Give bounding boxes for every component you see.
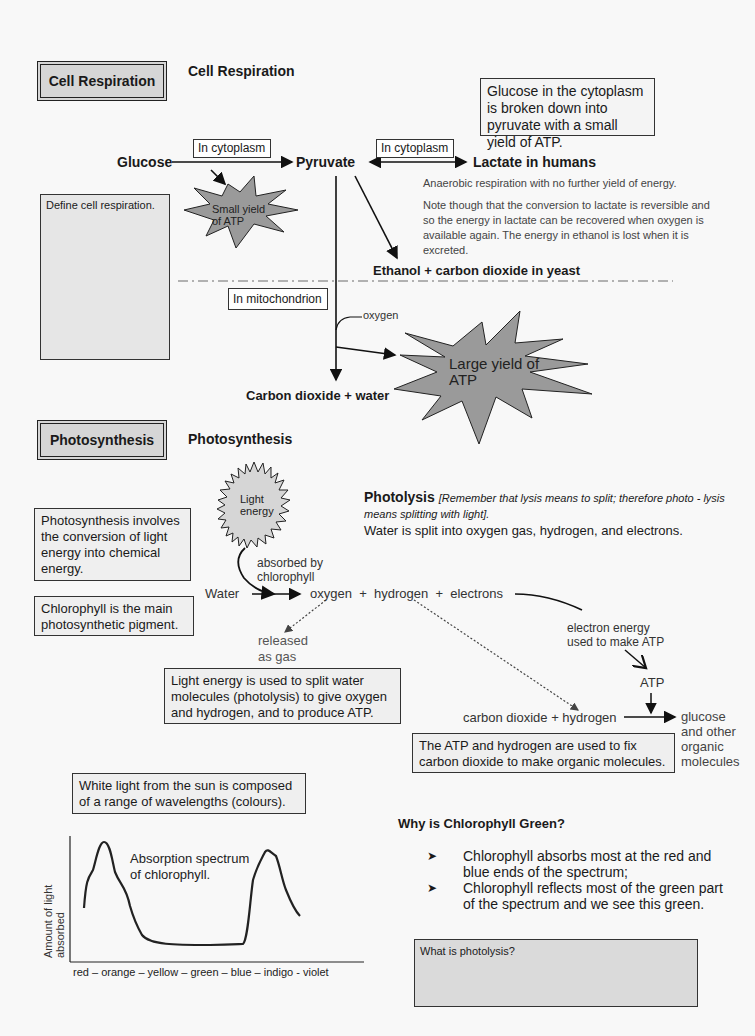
glucose-out-line4: molecules xyxy=(681,754,740,769)
water-label: Water xyxy=(205,586,239,601)
photolysis-prompt: What is photolysis? xyxy=(415,940,697,962)
pyruvate-label: Pyruvate xyxy=(296,154,355,170)
why-green-heading: Why is Chlorophyll Green? xyxy=(398,816,565,831)
bullet-item: ➤Chlorophyll absorbs most at the red and… xyxy=(427,848,727,880)
lactate-reversible-note: Note though that the conversion to lacta… xyxy=(423,198,713,258)
large-yield-line2: ATP xyxy=(449,372,539,388)
light-split-note: Light energy is used to split water mole… xyxy=(164,668,401,724)
absorbed-line2: chlorophyll xyxy=(257,570,323,584)
photosynthesis-involves-note: Photosynthesis involves the conversion o… xyxy=(34,508,191,581)
arrow-bullet-icon: ➤ xyxy=(427,848,437,864)
define-respiration-prompt: Define cell respiration. xyxy=(41,195,169,215)
released-line1: released xyxy=(258,633,308,649)
glucose-organic-label: glucose and other organic molecules xyxy=(681,709,740,769)
glucose-out-line1: glucose xyxy=(681,709,740,724)
in-mitochondrion-label: In mitochondrion xyxy=(228,288,328,310)
bullet-item: ➤Chlorophyll reflects most of the green … xyxy=(427,880,727,912)
bullet-text: Chlorophyll reflects most of the green p… xyxy=(463,880,723,912)
photolysis-explanation: Photolysis [Remember that lysis means to… xyxy=(364,490,744,538)
lactate-label: Lactate in humans xyxy=(473,154,596,170)
atp-fix-note: The ATP and hydrogen are used to fix car… xyxy=(412,733,675,773)
small-yield-text: Small yield of ATP xyxy=(212,203,272,227)
electron-energy-line2: used to make ATP xyxy=(567,635,664,649)
released-as-gas: released as gas xyxy=(258,633,308,665)
chart-title: Absorption spectrum of chlorophyll. xyxy=(130,851,260,883)
large-yield-line1: Large yield of xyxy=(449,356,539,372)
light-energy-line1: Light xyxy=(240,493,274,505)
chart-xlabel: red – orange – yellow – green – blue – i… xyxy=(73,966,329,978)
large-yield-text: Large yield of ATP xyxy=(449,356,539,388)
anaerobic-note: Anaerobic respiration with no further yi… xyxy=(423,176,713,191)
chlorophyll-pigment-note: Chlorophyll is the main photosynthetic p… xyxy=(34,596,194,636)
co2-hydrogen-label: carbon dioxide + hydrogen xyxy=(463,710,617,725)
atp-label: ATP xyxy=(640,675,664,690)
light-energy-line2: energy xyxy=(240,505,274,517)
products-label: oxygen + hydrogen + electrons xyxy=(310,586,503,601)
in-cytoplasm-label-2: In cytoplasm xyxy=(376,139,454,158)
photolysis-term: Photolysis xyxy=(364,489,435,505)
glucose-label: Glucose xyxy=(117,154,172,170)
small-yield-line1: Small yield xyxy=(212,203,272,215)
ethanol-label: Ethanol + carbon dioxide in yeast xyxy=(373,263,580,278)
arrow-bullet-icon: ➤ xyxy=(427,880,437,896)
small-yield-line2: of ATP xyxy=(212,215,272,227)
bullet-text: Chlorophyll absorbs most at the red and … xyxy=(463,848,711,880)
photosynthesis-heading: Photosynthesis xyxy=(188,431,292,447)
photosynthesis-section-box: Photosynthesis xyxy=(37,420,167,460)
chart-ylabel: Amount of light absorbed xyxy=(42,868,66,958)
electron-energy-label: electron energy used to make ATP xyxy=(567,621,664,649)
absorbed-line1: absorbed by xyxy=(257,556,323,570)
photolysis-answer-box[interactable]: What is photolysis? xyxy=(414,939,698,1007)
why-green-bullets: ➤Chlorophyll absorbs most at the red and… xyxy=(427,848,727,912)
photolysis-definition: Water is split into oxygen gas, hydrogen… xyxy=(364,523,744,538)
glucose-out-line2: and other xyxy=(681,724,740,739)
light-energy-text: Light energy xyxy=(240,493,274,517)
white-light-note: White light from the sun is composed of … xyxy=(72,773,306,814)
in-cytoplasm-label-1: In cytoplasm xyxy=(193,139,271,158)
electron-energy-line1: electron energy xyxy=(567,621,664,635)
released-line2: as gas xyxy=(258,649,308,665)
define-respiration-answer-box[interactable]: Define cell respiration. xyxy=(40,194,170,360)
glucose-out-line3: organic xyxy=(681,739,740,754)
oxygen-label: oxygen xyxy=(363,309,398,321)
absorbed-by-chlorophyll: absorbed by chlorophyll xyxy=(257,556,323,584)
co2-water-label: Carbon dioxide + water xyxy=(246,388,389,403)
section-box-label: Photosynthesis xyxy=(50,432,154,448)
